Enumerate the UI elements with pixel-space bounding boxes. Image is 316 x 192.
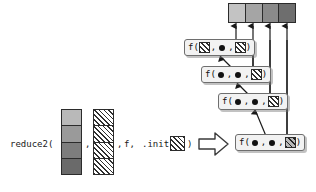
fbox-4-comma-1: ,: [260, 138, 267, 147]
output-cell: [229, 4, 246, 22]
fbox-4-close-paren: ): [296, 138, 301, 147]
fbox-1[interactable]: f( , , ): [184, 39, 255, 56]
array-cell: [94, 159, 113, 174]
fbox-1-fn-label: f(: [188, 43, 199, 52]
fbox-1-arg3-swatch: [235, 42, 246, 53]
reduce2-prefix-label: reduce2(: [10, 140, 53, 149]
fbox-2-fn-label: f(: [205, 70, 216, 79]
fbox-2-arg2-dot: [235, 72, 241, 78]
array-cell: [94, 126, 113, 142]
fbox-2-close-paren: ): [262, 70, 267, 79]
fbox-4-fn-label: f(: [239, 138, 250, 147]
output-cell: [263, 4, 280, 22]
fbox-4[interactable]: f( , , ): [235, 134, 305, 151]
fbox-2[interactable]: f( , , ): [201, 66, 271, 83]
reduce2-suffix-label: ): [187, 140, 192, 149]
array-cell: [94, 143, 113, 159]
fbox-3-fn-label: f(: [222, 97, 233, 106]
fbox-4-arg2-dot: [269, 140, 275, 146]
fbox-3-comma-2: ,: [260, 97, 267, 106]
fbox-1-arg1-swatch: [199, 42, 210, 53]
fbox-3-arg1-dot: [235, 99, 241, 105]
fbox-4-comma-2: ,: [277, 138, 284, 147]
fbox-3-close-paren: ): [279, 97, 284, 106]
fbox-2-arg3-swatch: [251, 69, 262, 80]
fbox-3[interactable]: f( , , ): [218, 93, 288, 110]
fbox-2-comma-2: ,: [243, 70, 250, 79]
output-array: [228, 3, 296, 23]
fbox-3-comma-1: ,: [243, 97, 250, 106]
fbox-3-arg2-dot: [252, 99, 258, 105]
fbox-1-comma-1: ,: [210, 43, 217, 52]
gray-input-array: [61, 109, 82, 175]
fbox-2-comma-1: ,: [226, 70, 233, 79]
diagram-canvas: reduce2( , , f, .init = ) f( , , ): [0, 0, 316, 192]
fbox-1-close-paren: ): [246, 43, 251, 52]
fbox-1-arg2-dot: [219, 45, 225, 51]
fbox-3-arg3-swatch: [268, 96, 279, 107]
reduce2-separator-1: ,: [85, 140, 90, 149]
array-cell: [62, 110, 81, 126]
array-cell: [62, 159, 81, 174]
array-cell: [94, 110, 113, 126]
fbox-4-arg1-dot: [252, 140, 258, 146]
fbox-4-arg3-swatch: [285, 137, 296, 148]
fbox-1-comma-2: ,: [227, 43, 234, 52]
output-cell: [279, 4, 295, 22]
array-cell: [62, 143, 81, 159]
output-cell: [246, 4, 263, 22]
array-cell: [62, 126, 81, 142]
block-arrow-right-icon: [198, 131, 230, 157]
init-swatch: [170, 136, 185, 151]
hatched-input-array: [93, 109, 114, 175]
reduce2-fn-arg-label: f,: [124, 140, 135, 149]
reduce2-separator-2: ,: [117, 140, 122, 149]
fbox-2-arg1-dot: [218, 72, 224, 78]
